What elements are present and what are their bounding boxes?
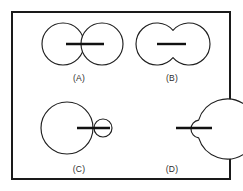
panel-d-label: (D)	[166, 164, 178, 174]
panel-c-label: (C)	[73, 164, 85, 174]
figure-canvas: (A) (B) (C) (D)	[0, 0, 243, 191]
figure-container: (A) (B) (C) (D)	[0, 0, 243, 191]
panel-b-label: (B)	[166, 73, 178, 83]
panel-a-label: (A)	[73, 73, 85, 83]
